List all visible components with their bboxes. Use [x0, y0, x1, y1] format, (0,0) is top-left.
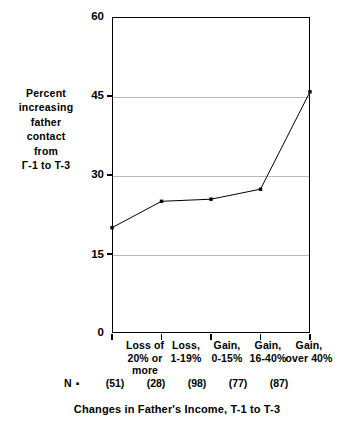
y-axis-title: Percent increasing father contact from Γ… [4, 86, 88, 172]
gridline-15 [113, 255, 309, 256]
chart-figure: 60 45 30 15 0 Percent increasing father … [0, 0, 354, 427]
gridline-30 [113, 176, 309, 177]
sample-size-legend: N ▪ [64, 377, 80, 389]
x-tick-label-0-line-3: more [115, 364, 175, 377]
y-axis-title-line-3: father [4, 115, 88, 129]
y-axis-title-line-1: Percent [4, 86, 88, 100]
y-axis-title-line-2: increasing [4, 100, 88, 114]
ytick-label-0: 0 [78, 327, 104, 338]
x-tick-label-4: Gain, over 40% [279, 339, 339, 364]
sample-size-value-0: (51) [92, 377, 138, 389]
plot-area [112, 17, 310, 333]
sample-size-value-4: (87) [256, 377, 302, 389]
ytick-label-15: 15 [78, 249, 104, 260]
x-tick-label-4-line-2: over 40% [279, 352, 339, 365]
y-axis-title-line-5: from [4, 144, 88, 158]
sample-size-row: N ▪ (51) (28) (98) (77) (87) [0, 377, 354, 393]
y-axis-title-line-6: Γ-1 to T-3 [4, 158, 88, 172]
x-tick-label-4-line-1: Gain, [279, 339, 339, 352]
sample-size-value-1: (28) [133, 377, 179, 389]
ytick-label-60: 60 [78, 11, 104, 22]
y-axis-title-line-4: contact [4, 129, 88, 143]
x-tick-labels: Loss of 20% or more Loss, 1-19% Gain, 0-… [88, 339, 354, 381]
sample-size-value-3: (77) [215, 377, 261, 389]
sample-size-value-2: (98) [174, 377, 220, 389]
x-axis-title: Changes in Father's Income, T-1 to T-3 [0, 403, 354, 415]
gridline-45 [113, 97, 309, 98]
